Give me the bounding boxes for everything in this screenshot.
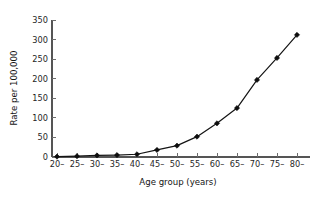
y-tick-label: 0 bbox=[43, 152, 48, 162]
y-tick-label: 100 bbox=[32, 113, 48, 123]
data-point-marker bbox=[174, 143, 179, 148]
y-axis-ticks bbox=[52, 20, 56, 157]
x-tick-label: 50– bbox=[170, 159, 185, 169]
x-tick-label: 20– bbox=[50, 159, 65, 169]
data-point-marker bbox=[74, 154, 79, 159]
data-series-markers bbox=[54, 32, 299, 159]
y-tick-label: 50 bbox=[38, 132, 48, 142]
x-tick-label: 35– bbox=[110, 159, 125, 169]
y-tick-label: 200 bbox=[32, 74, 48, 84]
x-tick-label: 45– bbox=[150, 159, 165, 169]
chart-figure: 050100150200250300350 20–25–30–35–40–45–… bbox=[0, 0, 321, 201]
x-tick-label: 70– bbox=[250, 159, 265, 169]
x-tick-label: 65– bbox=[230, 159, 245, 169]
y-tick-label: 250 bbox=[32, 54, 48, 64]
data-point-marker bbox=[154, 147, 159, 152]
chart-plot-area: 050100150200250300350 20–25–30–35–40–45–… bbox=[0, 0, 321, 201]
x-tick-label: 75– bbox=[270, 159, 285, 169]
x-tick-label: 80– bbox=[290, 159, 305, 169]
x-tick-label: 55– bbox=[190, 159, 205, 169]
y-tick-label: 150 bbox=[32, 93, 48, 103]
data-point-marker bbox=[134, 152, 139, 157]
data-series-line bbox=[57, 35, 297, 157]
series-line-path bbox=[57, 35, 297, 157]
x-tick-label: 60– bbox=[210, 159, 225, 169]
x-tick-label: 25– bbox=[70, 159, 85, 169]
x-tick-label: 40– bbox=[130, 159, 145, 169]
x-axis-tick-labels: 20–25–30–35–40–45–50–55–60–65–70–75–80– bbox=[50, 159, 305, 169]
y-tick-label: 350 bbox=[32, 15, 48, 25]
x-tick-label: 30– bbox=[90, 159, 105, 169]
x-axis-title: Age group (years) bbox=[139, 177, 216, 187]
y-axis-title: Rate per 100,000 bbox=[9, 51, 19, 126]
chart-axes bbox=[52, 20, 310, 157]
y-tick-label: 300 bbox=[32, 35, 48, 45]
y-axis-tick-labels: 050100150200250300350 bbox=[32, 15, 48, 162]
